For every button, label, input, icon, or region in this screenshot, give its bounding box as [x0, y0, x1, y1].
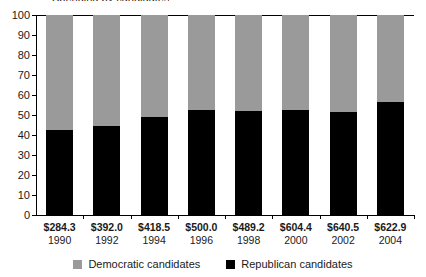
y-axis-tick-label: 60: [18, 90, 30, 101]
y-axis-tick: [32, 95, 36, 96]
x-axis-tick: [83, 215, 84, 219]
y-axis-tick: [32, 75, 36, 76]
legend-label-republican: Republican candidates: [241, 258, 352, 270]
bar-1990: [46, 15, 73, 215]
x-axis-tick: [225, 215, 226, 219]
plot-area: 0102030405060708090100: [36, 15, 414, 215]
legend-swatch-democratic-icon: [73, 260, 82, 269]
y-axis-tick: [32, 135, 36, 136]
bar-2000: [282, 15, 309, 215]
y-axis-tick-label: 0: [24, 210, 30, 221]
legend-label-democratic: Democratic candidates: [88, 258, 200, 270]
stacked-bar-chart: Spending by candidates 01020304050607080…: [0, 0, 426, 277]
y-axis-tick-label: 10: [18, 190, 30, 201]
legend-item-republican: Republican candidates: [226, 258, 352, 270]
y-axis-tick: [32, 195, 36, 196]
bar-1992: [93, 15, 120, 215]
bar-segment-republican: [282, 110, 309, 215]
x-axis-tick: [272, 215, 273, 219]
x-axis-label-amount: $622.9: [352, 221, 426, 234]
bar-segment-democratic: [188, 15, 215, 110]
x-axis-tick: [414, 215, 415, 219]
y-axis-tick: [32, 175, 36, 176]
y-axis-tick: [32, 155, 36, 156]
y-axis-tick-label: 80: [18, 50, 30, 61]
y-axis-tick-label: 90: [18, 30, 30, 41]
y-axis-line: [36, 15, 37, 216]
legend-item-democratic: Democratic candidates: [73, 258, 200, 270]
y-axis-tick: [32, 35, 36, 36]
bar-2004: [377, 15, 404, 215]
bar-segment-republican: [330, 112, 357, 215]
bar-1996: [188, 15, 215, 215]
x-axis-tick: [178, 215, 179, 219]
bar-segment-republican: [235, 111, 262, 215]
bar-segment-democratic: [235, 15, 262, 111]
y-axis-tick: [32, 215, 36, 216]
bar-segment-republican: [188, 110, 215, 215]
bar-2002: [330, 15, 357, 215]
x-axis-label-2004: $622.92004: [352, 221, 426, 246]
y-axis-tick: [32, 115, 36, 116]
x-axis-label-year: 2004: [352, 234, 426, 247]
bar-segment-democratic: [330, 15, 357, 112]
bar-segment-democratic: [282, 15, 309, 110]
legend-swatch-republican-icon: [226, 260, 235, 269]
bar-1994: [141, 15, 168, 215]
x-axis-tick: [131, 215, 132, 219]
x-axis-tick: [320, 215, 321, 219]
bar-segment-democratic: [377, 15, 404, 102]
y-axis-tick-label: 100: [12, 10, 30, 21]
x-axis-tick: [367, 215, 368, 219]
y-axis-tick-label: 40: [18, 130, 30, 141]
y-axis-tick-label: 70: [18, 70, 30, 81]
chart-title-clipped: Spending by candidates: [52, 0, 169, 1]
bar-segment-republican: [93, 126, 120, 215]
y-axis-tick-label: 20: [18, 170, 30, 181]
bar-segment-democratic: [46, 15, 73, 130]
bar-segment-democratic: [93, 15, 120, 126]
bar-segment-republican: [46, 130, 73, 215]
y-axis-tick: [32, 55, 36, 56]
bar-1998: [235, 15, 262, 215]
bar-segment-republican: [141, 117, 168, 215]
bar-segment-democratic: [141, 15, 168, 117]
chart-legend: Democratic candidates Republican candida…: [0, 258, 426, 270]
bar-segment-republican: [377, 102, 404, 215]
y-axis-tick-label: 30: [18, 150, 30, 161]
y-axis-tick: [32, 15, 36, 16]
y-axis-tick-label: 50: [18, 110, 30, 121]
